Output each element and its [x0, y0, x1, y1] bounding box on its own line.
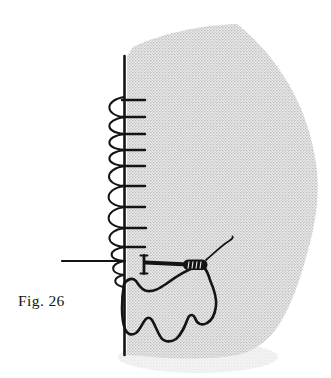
- figure-canvas: Fig. 26: [0, 0, 331, 378]
- figure-drawing: Fig. 26: [0, 0, 331, 378]
- suture-loop-chain: [109, 97, 124, 287]
- figure-label: Fig. 26: [18, 292, 65, 309]
- t-fastener-coil: [183, 260, 208, 271]
- tissue-body-shape: [127, 24, 318, 359]
- t-fastener-shaft: [146, 263, 189, 265]
